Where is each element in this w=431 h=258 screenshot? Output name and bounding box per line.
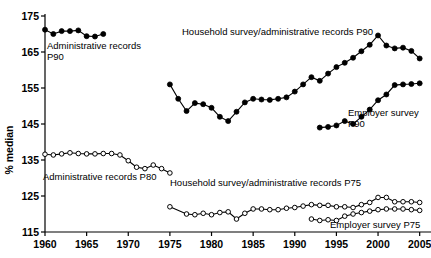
data-point <box>417 208 422 213</box>
data-point <box>184 109 189 114</box>
data-point <box>134 165 139 170</box>
data-point <box>176 96 181 101</box>
y-tick-label: 135 <box>21 154 39 166</box>
data-point <box>351 55 356 60</box>
data-point <box>201 211 206 216</box>
x-tick-label: 1985 <box>241 238 265 250</box>
x-tick-label: 1960 <box>33 238 57 250</box>
data-point <box>118 153 123 158</box>
series-filled-circle <box>317 81 422 130</box>
data-point <box>342 119 347 124</box>
annotations-layer: Administrative recordsP90Household surve… <box>43 26 420 230</box>
x-tick-label: 1965 <box>75 238 99 250</box>
data-point <box>317 125 322 130</box>
data-point <box>168 171 173 176</box>
x-tick-label: 2000 <box>366 238 390 250</box>
data-point <box>384 92 389 97</box>
data-point <box>367 42 372 47</box>
data-point <box>276 96 281 101</box>
data-point <box>101 151 106 156</box>
annotation-employer-p90-line2: P90 <box>348 118 365 129</box>
data-point <box>59 152 64 157</box>
data-point <box>67 29 72 34</box>
data-point <box>392 46 397 51</box>
data-point <box>43 152 48 157</box>
data-point <box>367 200 372 205</box>
data-point <box>259 207 264 212</box>
data-point <box>317 218 322 223</box>
line-chart: 1151251351451551651751960196519701975198… <box>0 0 431 258</box>
data-point <box>109 151 114 156</box>
y-tick-label: 165 <box>21 46 39 58</box>
data-point <box>51 153 56 158</box>
data-point <box>284 95 289 100</box>
data-point <box>401 45 406 50</box>
data-point <box>401 199 406 204</box>
data-point <box>76 28 81 33</box>
data-point <box>384 195 389 200</box>
y-tick-label: 125 <box>21 190 39 202</box>
data-point <box>409 199 414 204</box>
data-point <box>126 158 131 163</box>
data-point <box>59 29 64 34</box>
data-point <box>43 27 48 32</box>
data-point <box>92 34 97 39</box>
series-line <box>45 153 170 173</box>
data-point <box>417 200 422 205</box>
data-point <box>401 82 406 87</box>
data-point <box>417 56 422 61</box>
data-point <box>242 100 247 105</box>
data-point <box>184 212 189 217</box>
data-point <box>326 124 331 129</box>
data-point <box>301 82 306 87</box>
data-point <box>359 49 364 54</box>
data-point <box>51 32 56 37</box>
data-point <box>309 217 314 222</box>
data-point <box>251 96 256 101</box>
x-tick-label: 2005 <box>408 238 431 250</box>
data-point <box>168 205 173 210</box>
data-point <box>309 75 314 80</box>
data-point <box>93 152 98 157</box>
data-point <box>192 101 197 106</box>
data-point <box>392 83 397 88</box>
data-point <box>401 207 406 212</box>
data-point <box>334 65 339 70</box>
data-point <box>334 123 339 128</box>
series-filled-circle <box>43 27 106 39</box>
x-tick-label: 1980 <box>200 238 224 250</box>
data-point <box>218 210 223 215</box>
y-axis-title: % median <box>3 125 15 174</box>
data-point <box>259 97 264 102</box>
data-point <box>351 212 356 217</box>
annotation-admin-p80: Administrative records P80 <box>43 171 157 182</box>
data-point <box>351 205 356 210</box>
data-point <box>301 204 306 209</box>
data-point <box>292 205 297 210</box>
data-point <box>376 195 381 200</box>
data-point <box>384 207 389 212</box>
data-point <box>342 205 347 210</box>
data-point <box>76 151 81 156</box>
data-point <box>309 202 314 207</box>
data-point <box>384 43 389 48</box>
chart-container: 1151251351451551651751960196519701975198… <box>0 0 431 258</box>
data-point <box>151 163 156 168</box>
data-point <box>68 151 73 156</box>
data-point <box>359 202 364 207</box>
annotation-employer-p75: Employer survey P75 <box>330 219 420 230</box>
data-point <box>342 214 347 219</box>
y-tick-label: 155 <box>21 82 39 94</box>
data-point <box>326 203 331 208</box>
data-point <box>317 203 322 208</box>
series-line <box>320 83 420 127</box>
annotation-admin-p90-line2: P90 <box>47 51 64 62</box>
data-point <box>209 212 214 217</box>
data-point <box>392 199 397 204</box>
data-point <box>342 60 347 65</box>
data-point <box>234 217 239 222</box>
data-point <box>334 205 339 210</box>
data-point <box>209 105 214 110</box>
data-point <box>392 207 397 212</box>
data-point <box>326 71 331 76</box>
